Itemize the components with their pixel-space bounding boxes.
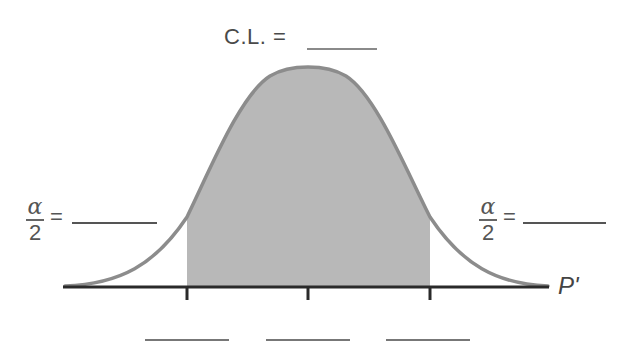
confidence-level-text: C.L. = [224,24,286,49]
upper-bound-blank[interactable] [386,339,470,341]
confidence-level-label: C.L. = [224,24,286,50]
left-tail-blank[interactable] [72,222,157,224]
normal-curve-figure [0,0,637,353]
lower-bound-blank[interactable] [145,339,229,341]
left-equals-sign: = [50,204,63,230]
left-alpha-half-fraction: α 2 [26,196,44,244]
right-alpha-half-fraction: α 2 [479,196,497,244]
axis-label-p-prime: P' [558,272,579,300]
confidence-level-blank[interactable] [307,48,377,50]
denominator: 2 [29,222,41,244]
confidence-region [187,67,430,287]
right-tail-blank[interactable] [523,222,606,224]
denominator: 2 [482,222,494,244]
alpha-symbol: α [28,196,43,218]
alpha-symbol: α [481,196,496,218]
right-equals-sign: = [503,204,516,230]
point-estimate-blank[interactable] [266,339,350,341]
